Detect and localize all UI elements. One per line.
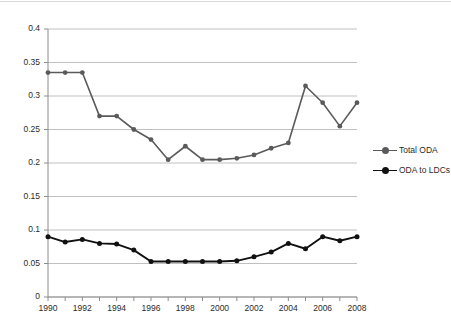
y-axis-label: 0 <box>6 292 40 301</box>
series-line-2 <box>48 237 357 262</box>
y-axis-label: 0.4 <box>6 24 40 33</box>
data-point <box>320 234 325 239</box>
data-point <box>131 248 136 253</box>
data-point <box>97 241 102 246</box>
y-axis-label: 0.35 <box>6 58 40 67</box>
data-point <box>183 144 188 149</box>
legend-label: ODA to LDCs <box>399 165 450 175</box>
data-point <box>149 259 154 264</box>
y-axis-label: 0.3 <box>6 91 40 100</box>
data-point <box>303 84 308 89</box>
data-point <box>234 258 239 263</box>
data-point <box>97 114 102 119</box>
legend-label: Total ODA <box>399 145 438 155</box>
data-point <box>80 237 85 242</box>
data-point <box>320 100 325 105</box>
data-point <box>303 246 308 251</box>
data-point <box>252 153 257 158</box>
y-axis-label: 0.1 <box>6 225 40 234</box>
data-point <box>131 127 136 132</box>
data-point <box>286 241 291 246</box>
y-axis-label: 0.25 <box>6 125 40 134</box>
data-point <box>114 242 119 247</box>
y-axis-label: 0.15 <box>6 192 40 201</box>
data-point <box>200 259 205 264</box>
data-point <box>149 137 154 142</box>
legend-marker-icon <box>373 165 397 175</box>
data-point <box>46 234 51 239</box>
legend-item-2[interactable]: ODA to LDCs <box>373 163 450 177</box>
legend-item-1[interactable]: Total ODA <box>373 143 438 157</box>
data-point <box>269 146 274 151</box>
data-point <box>337 124 342 129</box>
series-line-1 <box>48 73 357 160</box>
data-point <box>217 259 222 264</box>
y-axis-label: 0.2 <box>6 158 40 167</box>
data-point <box>355 100 360 105</box>
data-point <box>166 259 171 264</box>
data-point <box>234 156 239 161</box>
data-point <box>337 238 342 243</box>
legend-marker-icon <box>373 145 397 155</box>
y-axis-label: 0.05 <box>6 259 40 268</box>
x-axis-label: 2008 <box>337 304 377 313</box>
data-point <box>252 254 257 259</box>
data-point <box>46 70 51 75</box>
data-point <box>63 70 68 75</box>
data-point <box>183 259 188 264</box>
data-point <box>269 250 274 255</box>
data-point <box>63 240 68 245</box>
data-point <box>80 70 85 75</box>
data-point <box>355 234 360 239</box>
data-point <box>166 157 171 162</box>
data-point <box>286 141 291 146</box>
data-point <box>217 157 222 162</box>
line-chart: 00.050.10.150.20.250.30.350.419901992199… <box>0 0 451 329</box>
data-point <box>200 157 205 162</box>
data-point <box>114 114 119 119</box>
